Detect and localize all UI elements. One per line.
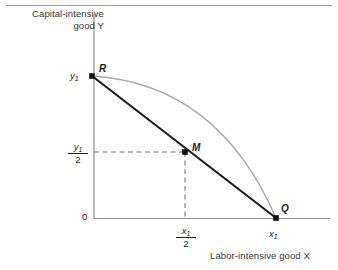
point-marker-Q [273,215,279,221]
origin-label: 0 [82,211,87,223]
x-tick-half-numerator: x1 [176,226,196,236]
y-axis-title: Capital-intensive good Y [8,8,104,31]
y-tick-label-y1-half: y1 2 [68,142,88,165]
point-marker-M [182,149,188,155]
x-tick-label-x1-half: x1 2 [176,226,196,249]
x-tick-x1-sub: 1 [274,233,278,240]
y-tick-label-y1: y1 [70,70,79,82]
y-tick-half-numerator: y1 [68,142,88,152]
y-tick-y1-sub: 1 [75,75,79,82]
point-label-R: R [99,63,106,75]
x-axis-title: Labor-intensive good X [210,250,310,262]
ppf-diagram: Capital-intensive good Y Labor-intensive… [0,0,338,270]
y-tick-half-denominator: 2 [68,155,88,165]
x-tick-label-x1: x1 [269,228,278,240]
point-label-M: M [192,142,200,154]
x-tick-half-denominator: 2 [176,239,196,249]
chord-line-RQ [92,76,276,218]
point-label-Q: Q [281,203,289,215]
point-marker-R [89,73,95,79]
diagram-canvas [0,0,338,270]
